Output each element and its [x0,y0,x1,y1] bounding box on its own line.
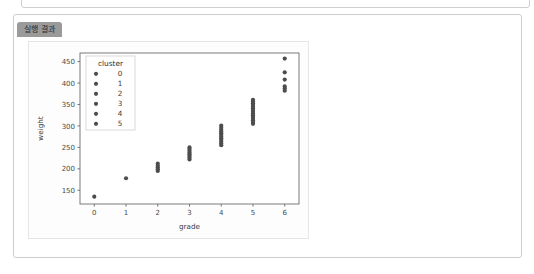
result-panel: 실행 결과 0123456150200250300350400450gradew… [13,14,522,258]
y-tick-label: 150 [62,187,75,195]
data-point [92,195,96,199]
data-point [124,176,128,180]
legend-label: 4 [118,109,123,118]
y-tick-label: 450 [62,58,75,66]
y-tick-label: 200 [62,165,75,173]
y-tick-label: 300 [62,123,75,131]
data-point [283,70,287,74]
y-tick-label: 350 [62,101,75,109]
legend-title: cluster [98,59,124,68]
x-tick-label: 2 [156,209,160,217]
x-tick-label: 6 [282,209,287,217]
data-point [156,162,160,166]
x-tick-label: 4 [219,209,224,217]
scatter-plot-figure: 0123456150200250300350400450gradeweightc… [28,41,309,239]
legend-label: 2 [118,89,123,98]
legend-label: 5 [118,119,123,128]
tab-execution-result[interactable]: 실행 결과 [17,22,62,37]
legend-marker [94,82,98,86]
screenshot-root: 실행 결과 0123456150200250300350400450gradew… [0,0,534,274]
x-tick-label: 1 [124,209,128,217]
data-point [187,145,191,149]
legend-marker [94,72,98,76]
data-point [251,98,255,102]
scatter-plot-svg: 0123456150200250300350400450gradeweightc… [29,42,308,238]
x-tick-label: 0 [92,209,96,217]
x-tick-label: 3 [187,209,191,217]
x-tick-label: 5 [251,209,255,217]
legend-label: 0 [118,69,123,78]
data-point [219,123,223,127]
legend-marker [94,122,98,126]
legend-label: 1 [118,79,123,88]
upper-panel-edge [21,0,530,8]
legend-marker [94,102,98,106]
legend-marker [94,92,98,96]
data-point [283,84,287,88]
data-point [283,77,287,81]
data-point [283,56,287,60]
y-tick-label: 400 [62,80,75,88]
x-axis-label: grade [179,222,200,231]
y-axis-label: weight [36,116,45,140]
legend-marker [94,112,98,116]
legend-label: 3 [118,99,123,108]
tab-bar: 실행 결과 [17,18,62,34]
y-tick-label: 250 [62,144,75,152]
